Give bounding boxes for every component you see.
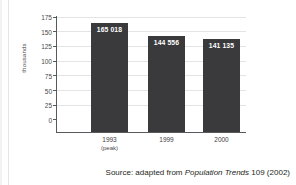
plot-area: 165 018 144 556 141 135 [56, 16, 246, 133]
y-tick-label-75: 75 [26, 73, 52, 80]
source-note-prefix: Source: adapted from [106, 168, 185, 177]
gridline-175 [57, 17, 246, 18]
page-edge-artifact [8, 0, 9, 185]
y-tick-label-100: 100 [26, 58, 52, 65]
x-tick-label-1993-note: (peak) [84, 144, 135, 152]
source-note-publication: Population Trends [185, 168, 249, 177]
x-axis-category-labels: 1993 (peak) 1999 2000 [56, 136, 246, 158]
y-tick-label-25: 25 [26, 102, 52, 109]
bar-1993[interactable]: 165 018 [91, 23, 128, 132]
x-tick-label-1993: 1993 (peak) [84, 136, 135, 152]
x-tick-label-1999-year: 1999 [159, 136, 173, 143]
x-tick-label-2000-year: 2000 [214, 136, 228, 143]
x-tick-label-1993-year: 1993 [102, 136, 116, 143]
bar-value-label-2000: 141 135 [203, 42, 240, 49]
x-tick-label-1999: 1999 [141, 136, 192, 144]
x-axis-line [56, 132, 246, 133]
y-tick-label-50: 50 [26, 88, 52, 95]
bar-value-label-1999: 144 556 [148, 39, 185, 46]
y-axis-line [56, 16, 57, 133]
bar-chart-figure: thousands 175 150 125 100 75 50 25 0 165… [0, 0, 296, 185]
source-note-suffix: 109 (2002) [249, 168, 290, 177]
y-tick-label-125: 125 [26, 43, 52, 50]
x-tick-label-2000: 2000 [196, 136, 247, 144]
bar-2000[interactable]: 141 135 [203, 39, 240, 133]
page-edge-artifact-outer [0, 0, 2, 185]
bar-1999[interactable]: 144 556 [148, 36, 185, 132]
y-tick-label-175: 175 [26, 14, 52, 21]
y-tick-label-0: 0 [26, 117, 52, 124]
bar-value-label-1993: 165 018 [91, 26, 128, 33]
gridline-150 [57, 31, 246, 32]
y-tick-label-150: 150 [26, 29, 52, 36]
y-axis-tick-labels: 175 150 125 100 75 50 25 0 [24, 16, 52, 133]
source-note: Source: adapted from Population Trends 1… [0, 168, 290, 177]
